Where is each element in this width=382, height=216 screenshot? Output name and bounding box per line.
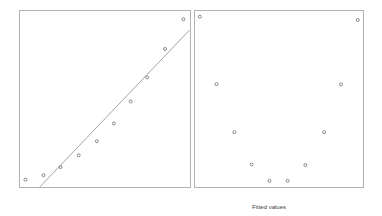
data-point: [42, 174, 45, 177]
data-point: [323, 131, 326, 134]
data-point: [129, 100, 132, 103]
data-point: [356, 18, 359, 21]
data-point: [24, 178, 27, 181]
residuals-plot: [195, 11, 363, 187]
data-point: [304, 164, 307, 167]
scatter-fit-plot: [20, 11, 190, 187]
data-point: [59, 166, 62, 169]
data-point: [268, 179, 271, 182]
residuals-panel: [194, 10, 364, 188]
scatter-fit-panel: [19, 10, 191, 188]
data-point: [198, 15, 201, 18]
data-point: [164, 48, 167, 51]
data-point: [112, 122, 115, 125]
fitted-values-axis-label: Fitted values: [252, 203, 286, 211]
data-point: [339, 83, 342, 86]
data-point: [215, 83, 218, 86]
data-point: [95, 140, 98, 143]
data-point: [77, 154, 80, 157]
fitted-regression-line: [40, 30, 190, 187]
data-point: [146, 76, 149, 79]
data-point: [286, 179, 289, 182]
data-point: [233, 131, 236, 134]
data-point: [250, 163, 253, 166]
data-point: [182, 18, 185, 21]
diagnostic-figure: Fitted values: [0, 0, 382, 216]
